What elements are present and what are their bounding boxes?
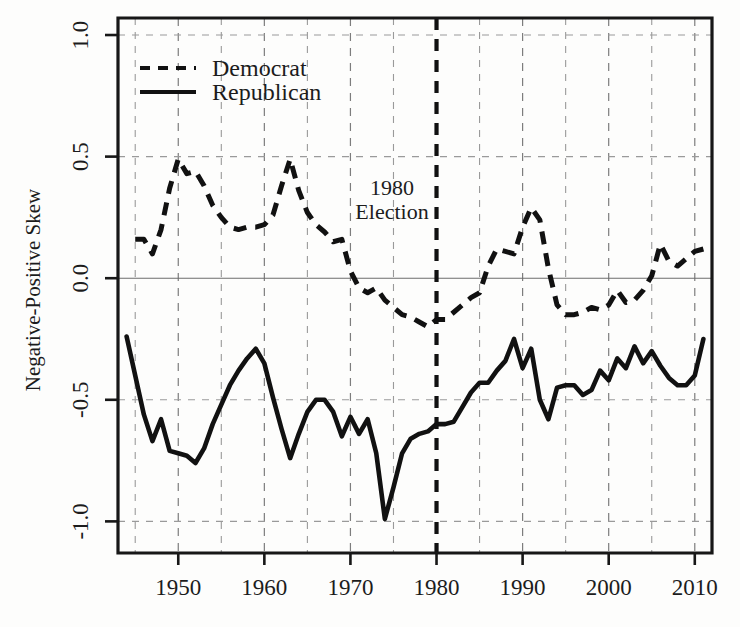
y-tick-label: -1.0 xyxy=(68,503,93,539)
x-tick-label: 1990 xyxy=(500,575,546,600)
x-tick-label: 2000 xyxy=(586,575,632,600)
x-tick-label: 1980 xyxy=(414,575,460,600)
series-line-democrat xyxy=(135,159,703,327)
y-axis-title: Negative-Positive Skew xyxy=(21,188,45,391)
y-axis-title-text: Negative-Positive Skew xyxy=(21,188,45,391)
plot-frame xyxy=(118,18,712,553)
y-axis-tick-labels: 1.00.50.0-0.5-1.0 xyxy=(68,21,93,540)
y-tick-label: 0.0 xyxy=(68,264,93,293)
y-tick-label: -0.5 xyxy=(68,382,93,418)
chart-container: 1950196019701980199020002010 1.00.50.0-0… xyxy=(0,0,740,627)
legend-label-republican: Republican xyxy=(212,79,321,105)
y-tick-label: 1.0 xyxy=(68,21,93,50)
y-tick-label: 0.5 xyxy=(68,142,93,171)
skew-line-chart: 1950196019701980199020002010 1.00.50.0-0… xyxy=(0,0,740,627)
election-annotation: 1980 Election xyxy=(355,175,428,224)
x-tick-label: 2010 xyxy=(672,575,718,600)
axis-ticks xyxy=(105,35,695,565)
x-tick-label: 1970 xyxy=(327,575,373,600)
legend-label-democrat: Democrat xyxy=(212,55,307,81)
x-tick-label: 1960 xyxy=(241,575,287,600)
annotation-line-1: 1980 xyxy=(370,175,414,200)
x-axis-tick-labels: 1950196019701980199020002010 xyxy=(155,575,718,600)
annotation-line-2: Election xyxy=(355,199,428,224)
series-line-republican xyxy=(127,337,704,519)
chart-legend: Democrat Republican xyxy=(140,55,321,105)
x-tick-label: 1950 xyxy=(155,575,201,600)
